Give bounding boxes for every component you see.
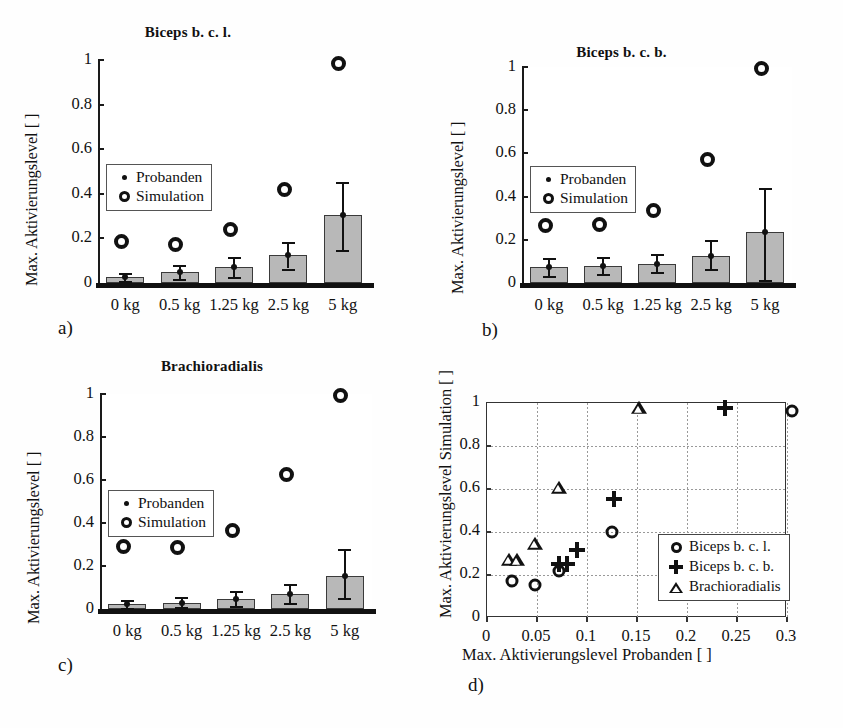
mean-marker: [600, 263, 606, 269]
panel-a-baseline: [96, 283, 374, 288]
xtick-label: 0.25: [711, 626, 761, 646]
errorbar-cap-lower: [121, 608, 134, 610]
panel-c-label: c): [58, 654, 73, 676]
xtick-label: 0.5 kg: [576, 295, 630, 315]
panel-a-ylabel: Max. Aktivierungslevel [ ]: [22, 114, 42, 286]
errorbar-cap-lower: [230, 606, 243, 608]
legend-label-probanden: Probanden: [138, 495, 204, 511]
circle-glyph: [121, 517, 132, 528]
panel-c-ytick-label: 0.4: [54, 512, 94, 532]
ytick-label: 0.4: [444, 520, 480, 540]
xtick-label: 2.5 kg: [261, 295, 315, 315]
panel-a-ytick-label: 0.2: [52, 227, 92, 247]
panel-d-xlabel: Max. Aktivierungslevel Probanden [ ]: [462, 645, 712, 665]
mean-marker: [231, 264, 237, 270]
xtick-label: 0.05: [511, 626, 561, 646]
ytick-mark: [486, 488, 491, 490]
xtick-label: 0.5 kg: [154, 621, 208, 641]
marker-glyph: [669, 560, 683, 574]
errorbar-cap-upper: [228, 257, 241, 259]
panel-b-ytick-mark: [522, 152, 528, 154]
open-circle-marker-icon: [536, 193, 560, 204]
panel-b-ytick-mark: [522, 66, 528, 68]
xtick-label: 0.2: [661, 626, 711, 646]
xtick-mark: [736, 617, 738, 622]
errorbar-cap-upper: [543, 258, 556, 260]
xtick-label: 5 kg: [316, 295, 370, 315]
xtick-label: 1.25 kg: [207, 295, 261, 315]
errorbar-cap-lower: [173, 279, 186, 281]
panel-b-legend: ProbandenSimulation: [530, 166, 636, 213]
panel-c-ytick-mark: [100, 522, 106, 524]
legend-row-probanden: Probanden: [536, 170, 628, 189]
ytick-label: 0.8: [444, 434, 480, 454]
panel-c-title: Brachioradialis: [2, 358, 422, 375]
errorbar-cap-lower: [759, 280, 772, 282]
errorbar-cap-lower: [119, 281, 132, 283]
datapoint-plus: [606, 491, 622, 507]
panel-b-ytick-label: 0.6: [476, 142, 516, 162]
errorbar-cap-upper: [282, 242, 295, 244]
legend-row-simulation: Simulation: [114, 513, 206, 532]
mean-marker: [340, 212, 346, 218]
panel-a-biceps-brachii-caput-longum: Biceps b. c. l. Max. Aktivierungslevel […: [0, 14, 420, 354]
mean-marker: [287, 591, 293, 597]
gridline-vertical: [637, 403, 638, 618]
dot-glyph: [122, 175, 127, 180]
panel-b-ytick-label: 0.4: [476, 186, 516, 206]
xtick-label: 1.25 kg: [630, 295, 684, 315]
simulation-marker: [223, 222, 238, 237]
simulation-marker: [170, 540, 185, 555]
panel-a-ytick-mark: [98, 193, 104, 195]
errorbar-cap-lower: [336, 250, 349, 252]
datapoint-open-circle: [786, 404, 799, 417]
errorbar-cap-lower: [284, 603, 297, 605]
panel-c-ytick-label: 0.8: [54, 426, 94, 446]
panel-c-baseline: [98, 609, 376, 614]
ytick-label: 1: [444, 391, 480, 411]
xtick-label: 0: [461, 626, 511, 646]
errorbar-cap-lower: [597, 274, 610, 276]
simulation-marker: [646, 203, 661, 218]
legend-label-simulation: Simulation: [138, 514, 206, 530]
xtick-label: 1.25 kg: [209, 621, 263, 641]
datapoint-open-circle: [529, 578, 542, 591]
simulation-marker: [700, 152, 715, 167]
simulation-marker: [114, 234, 129, 249]
datapoint-open-circle: [606, 526, 619, 539]
gridline-horizontal: [487, 489, 787, 490]
panel-c-ytick-label: 0: [54, 598, 94, 618]
errorbar-cap-upper: [284, 584, 297, 586]
simulation-marker: [225, 523, 240, 538]
xtick-label: 0 kg: [98, 295, 152, 315]
simulation-marker: [754, 61, 769, 76]
panel-a-ytick-mark: [98, 237, 104, 239]
errorbar-cap-upper: [759, 188, 772, 190]
xtick-mark: [686, 617, 688, 622]
panel-a-ytick-mark: [98, 148, 104, 150]
datapoint-plus: [717, 400, 733, 416]
legend-row-0: Biceps b. c. l.: [663, 537, 781, 557]
errorbar-cap-upper: [651, 254, 664, 256]
panel-a-legend: ProbandenSimulation: [106, 164, 212, 211]
mean-marker: [179, 600, 185, 606]
panel-c-ylabel: Max. Aktivierungslevel [ ]: [24, 452, 44, 624]
errorbar-cap-upper: [705, 240, 718, 242]
errorbar-cap-upper: [173, 265, 186, 267]
errorbar-cap-upper: [175, 597, 188, 599]
datapoint-open-circle: [506, 575, 519, 588]
panel-c-brachioradialis: Brachioradialis Max. Aktivierungslevel […: [0, 356, 420, 696]
panel-c-ytick-mark: [100, 565, 106, 567]
panel-a-ytick-label: 0.6: [52, 138, 92, 158]
errorbar-cap-lower: [282, 269, 295, 271]
errorbar-cap-lower: [175, 607, 188, 609]
xtick-label: 5 kg: [738, 295, 792, 315]
xtick-label: 0.1: [561, 626, 611, 646]
panel-d-scatter-comparison: Max. Aktivierungslevel Simulation [ ] Ma…: [420, 356, 843, 728]
datapoint-triangle: [509, 553, 525, 566]
datapoint-triangle: [631, 401, 647, 414]
small-dot-marker-icon: [536, 177, 560, 182]
circle-glyph: [543, 193, 554, 204]
errorbar-cap-lower: [651, 272, 664, 274]
legend-label-probanden: Probanden: [560, 171, 626, 187]
